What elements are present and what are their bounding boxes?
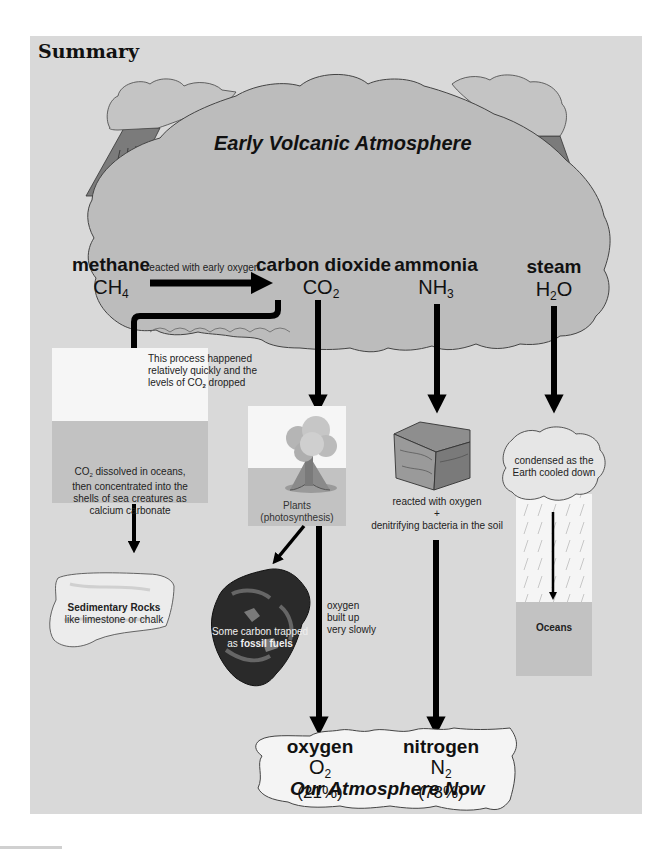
gas-formula: CO2: [256, 276, 386, 301]
plants-label: Plants (photosynthesis): [248, 500, 346, 524]
atmosphere-now-heading: Our Atmosphere Now: [290, 778, 485, 800]
condensation-label: condensed as the Earth cooled down: [504, 455, 604, 479]
oceans-label: Oceans: [516, 622, 592, 634]
methane-arrow-label: reacted with early oxygen: [146, 262, 259, 274]
fossil-fuels-label: Some carbon trapped as fossil fuels: [200, 626, 320, 650]
sedimentary-rocks-label: Sedimentary Rocks like limestone or chal…: [56, 602, 172, 626]
diagram-art: [0, 0, 663, 851]
gas-name: steam: [524, 256, 584, 278]
right-ocean-water: [516, 602, 592, 676]
gas-name: carbon dioxide: [256, 254, 386, 276]
gas-formula: CH4: [66, 276, 156, 301]
gas-name: ammonia: [394, 254, 478, 276]
gas-steam: steam H2O: [524, 256, 584, 303]
early-atmosphere-heading: Early Volcanic Atmosphere: [214, 132, 472, 155]
oxygen-buildup-note: oxygen built up very slowly: [327, 600, 376, 636]
gas-carbon-dioxide: carbon dioxide CO2: [256, 254, 386, 301]
page-footer-strip: [0, 846, 62, 849]
gas-methane: methane CH4: [66, 254, 156, 301]
gas-name: nitrogen: [396, 736, 486, 758]
process-note: This process happened relatively quickly…: [148, 353, 257, 392]
plants-to-fossil-arrow: [276, 526, 304, 560]
gas-ammonia: ammonia NH3: [394, 254, 478, 301]
gas-name: oxygen: [280, 736, 360, 758]
ammonia-reaction-note: reacted with oxygen + denitrifying bacte…: [370, 496, 504, 532]
soil-cube-icon: [394, 422, 470, 490]
gas-formula: NH3: [394, 276, 478, 301]
gas-formula: H2O: [524, 278, 584, 303]
ocean-dissolve-text: CO2 dissolved in oceans, then concentrat…: [52, 466, 208, 517]
gas-name: methane: [66, 254, 156, 276]
